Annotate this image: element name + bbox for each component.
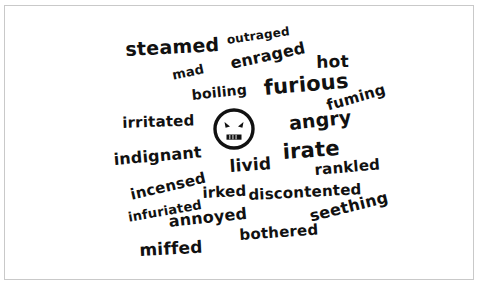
word-cloud-canvas: steamedoutragedhotmadenragedboilingfurio…	[0, 0, 480, 286]
word-boiling: boiling	[191, 82, 248, 102]
word-mad: mad	[171, 62, 205, 81]
word-bothered: bothered	[239, 222, 319, 242]
word-livid: livid	[229, 155, 272, 175]
tooth-gap-1	[229, 135, 230, 139]
angry-face-icon	[211, 106, 257, 152]
word-indignant: indignant	[113, 144, 202, 168]
word-steamed: steamed	[125, 35, 220, 59]
word-rankled: rankled	[314, 157, 381, 178]
tooth-gap-2	[233, 135, 234, 139]
image-frame: steamedoutragedhotmadenragedboilingfurio…	[4, 5, 474, 280]
word-irritated: irritated	[122, 113, 195, 131]
word-miffed: miffed	[139, 239, 203, 259]
word-angry: angry	[288, 107, 352, 132]
mouth	[227, 135, 242, 140]
tooth-gap-3	[236, 135, 237, 139]
angry-face-svg	[211, 106, 257, 152]
word-irked: irked	[202, 184, 247, 201]
